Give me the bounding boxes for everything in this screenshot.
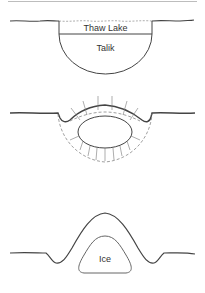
thaw-lake-label: Thaw Lake: [59, 23, 152, 33]
panel-pingo: [10, 213, 195, 273]
ice-label: Ice: [80, 254, 130, 264]
panel-refreezing: [10, 96, 195, 162]
talik-label: Talik: [59, 43, 152, 53]
